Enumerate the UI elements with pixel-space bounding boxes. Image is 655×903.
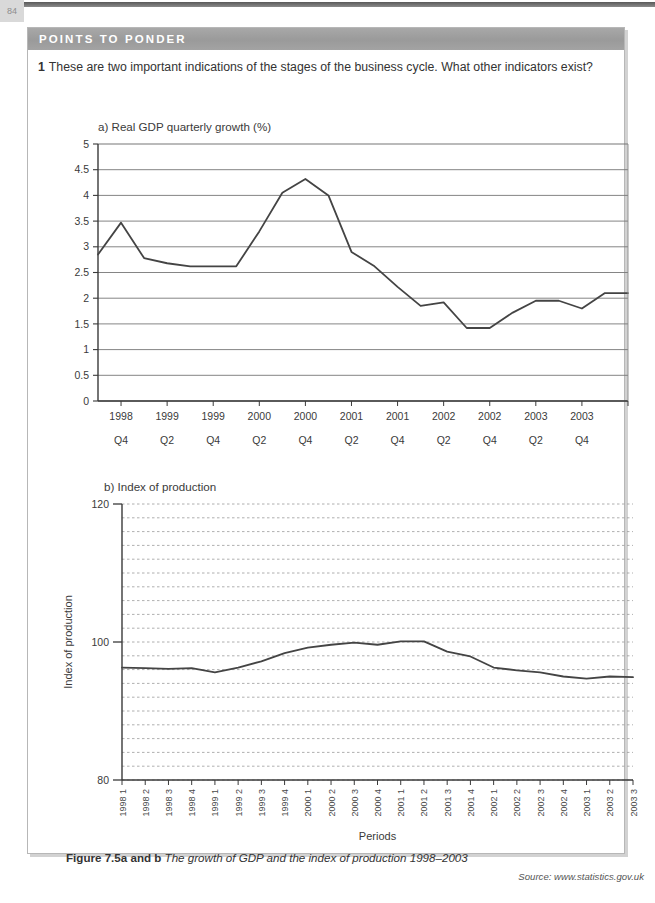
chart-a-real-gdp-quarterly-growth: 00.511.522.533.544.551998Q41999Q21999Q42… — [55, 128, 653, 473]
x-axis-year-label: 2001 — [386, 410, 410, 422]
chart-b-index-of-production: 80100120Index of production1998 11998 21… — [55, 490, 653, 845]
x-axis-tick-label: 2000 2 — [327, 789, 337, 817]
y-axis-tick-label: 3 — [83, 240, 89, 252]
x-axis-tick-label: 2001 4 — [466, 789, 476, 817]
x-axis-tick-label: 2001 3 — [443, 789, 453, 817]
x-axis-tick-label: 2001 2 — [419, 789, 429, 817]
figure-caption: Figure 7.5a and b The growth of GDP and … — [66, 851, 644, 864]
x-axis-quarter-label: Q4 — [206, 434, 220, 446]
question-text: These are two important indications of t… — [49, 60, 593, 74]
chart-a-data-line — [98, 179, 628, 328]
x-axis-tick-label: 1999 3 — [257, 789, 267, 817]
y-axis-tick-label: 0.5 — [74, 369, 89, 381]
x-axis-tick-label: 2000 3 — [350, 789, 360, 817]
x-axis-quarter-label: Q2 — [529, 434, 543, 446]
x-axis-year-label: 2000 — [294, 410, 318, 422]
question-number: 1 — [38, 60, 45, 74]
y-axis-tick-label: 2.5 — [74, 266, 89, 278]
y-axis-tick-label: 5 — [83, 138, 89, 150]
y-axis-tick-label: 1 — [83, 343, 89, 355]
x-axis-quarter-label: Q2 — [252, 434, 266, 446]
x-axis-quarter-label: Q4 — [391, 434, 405, 446]
x-axis-tick-label: 1998 2 — [141, 789, 151, 817]
x-axis-tick-label: 2003 1 — [582, 789, 592, 817]
y-axis-tick-label: 80 — [97, 774, 109, 786]
x-axis-tick-label: 2002 3 — [536, 789, 546, 817]
figure-caption-label: Figure 7.5a and b — [66, 851, 161, 864]
question-row: 1These are two important indications of … — [28, 50, 624, 77]
x-axis-year-label: 2001 — [340, 410, 364, 422]
x-axis-tick-label: 2002 2 — [512, 789, 522, 817]
y-axis-tick-label: 3.5 — [74, 215, 89, 227]
x-axis-year-label: 2003 — [524, 410, 548, 422]
x-axis-year-label: 2003 — [570, 410, 594, 422]
y-axis-tick-label: 4.5 — [74, 163, 89, 175]
x-axis-tick-label: 2002 4 — [559, 789, 569, 817]
y-axis-title: Index of production — [62, 595, 74, 689]
x-axis-tick-label: 1998 3 — [164, 789, 174, 817]
x-axis-quarter-label: Q2 — [437, 434, 451, 446]
x-axis-tick-label: 2003 2 — [605, 789, 615, 817]
x-axis-tick-label: 1998 1 — [118, 789, 128, 817]
x-axis-year-label: 1998 — [109, 410, 133, 422]
top-rule-decoration — [24, 2, 655, 7]
x-axis-tick-label: 2000 1 — [303, 789, 313, 817]
chart-b-data-line — [122, 641, 633, 678]
y-axis-tick-label: 1.5 — [74, 318, 89, 330]
x-axis-tick-label: 2003 3 — [629, 789, 639, 817]
x-axis-year-label: 2002 — [478, 410, 502, 422]
x-axis-quarter-label: Q4 — [298, 434, 312, 446]
x-axis-tick-label: 1998 4 — [187, 789, 197, 817]
x-axis-tick-label: 1999 4 — [280, 789, 290, 817]
x-axis-tick-label: 2000 4 — [373, 789, 383, 817]
x-axis-quarter-label: Q4 — [114, 434, 128, 446]
x-axis-title: Periods — [359, 830, 397, 842]
x-axis-tick-label: 2001 1 — [396, 789, 406, 817]
figure-caption-text: The growth of GDP and the index of produ… — [165, 851, 468, 864]
y-axis-tick-label: 100 — [91, 636, 109, 648]
x-axis-year-label: 1999 — [155, 410, 179, 422]
x-axis-quarter-label: Q2 — [344, 434, 358, 446]
x-axis-tick-label: 1999 2 — [234, 789, 244, 817]
x-axis-tick-label: 1999 1 — [210, 789, 220, 817]
x-axis-tick-label: 2002 1 — [489, 789, 499, 817]
x-axis-year-label: 2000 — [248, 410, 272, 422]
x-axis-year-label: 1999 — [202, 410, 226, 422]
x-axis-quarter-label: Q4 — [575, 434, 589, 446]
points-to-ponder-panel: POINTS TO PONDER 1These are two importan… — [27, 27, 625, 854]
x-axis-quarter-label: Q2 — [160, 434, 174, 446]
y-axis-tick-label: 2 — [83, 292, 89, 304]
panel-header-title: POINTS TO PONDER — [28, 28, 624, 50]
figure-source: Source: www.statistics.gov.uk — [66, 871, 644, 882]
y-axis-tick-label: 0 — [83, 395, 89, 407]
y-axis-tick-label: 4 — [83, 189, 89, 201]
x-axis-year-label: 2002 — [432, 410, 456, 422]
y-axis-tick-label: 120 — [91, 498, 109, 510]
x-axis-quarter-label: Q4 — [483, 434, 497, 446]
page-number: 84 — [0, 0, 24, 22]
